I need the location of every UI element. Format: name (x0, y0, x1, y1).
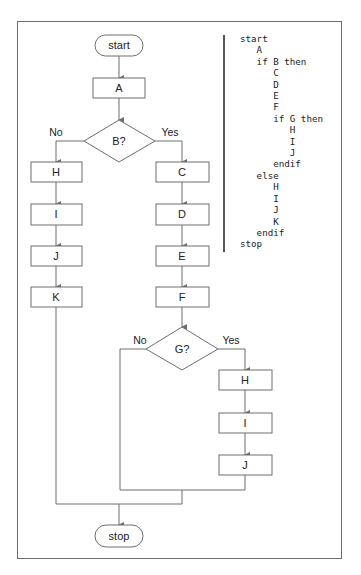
code-line: I (240, 193, 323, 204)
b-no-label: No (49, 126, 63, 138)
code-line: K (240, 216, 323, 227)
code-line: start (240, 33, 323, 44)
g-no-label: No (133, 334, 147, 346)
start-terminal: start (95, 35, 143, 56)
process-inner-h: H (219, 370, 272, 390)
code-line: endif (240, 158, 323, 169)
code-line: A (240, 44, 323, 55)
process-f: F (156, 287, 209, 307)
svg-text:start: start (108, 39, 129, 51)
svg-text:H: H (241, 374, 249, 386)
process-left-i: I (31, 204, 82, 225)
code-line: if B then (240, 56, 323, 67)
code-line: C (240, 67, 323, 78)
code-line: H (240, 181, 323, 192)
process-d: D (156, 204, 209, 225)
svg-text:F: F (179, 291, 186, 303)
svg-text:J: J (53, 250, 59, 262)
code-line: F (240, 101, 323, 112)
process-a: A (93, 78, 145, 98)
svg-text:E: E (178, 250, 185, 262)
process-left-k: K (31, 287, 82, 307)
svg-text:stop: stop (109, 530, 130, 542)
decision-g: G? (146, 327, 218, 370)
process-c: C (156, 162, 209, 182)
svg-text:J: J (242, 459, 248, 471)
svg-text:C: C (178, 166, 186, 178)
code-line: H (240, 124, 323, 135)
pseudocode-block: start A if B then C D E F if G then H I … (240, 33, 323, 250)
svg-text:G?: G? (175, 343, 190, 355)
g-yes-label: Yes (222, 334, 239, 346)
svg-text:D: D (178, 208, 186, 220)
decision-b: B? (84, 120, 155, 162)
stop-terminal: stop (95, 525, 143, 547)
svg-text:I: I (243, 417, 246, 429)
code-line: endif (240, 227, 323, 238)
process-left-h: H (31, 162, 82, 182)
code-line: E (240, 90, 323, 101)
svg-text:H: H (52, 166, 60, 178)
code-line: D (240, 79, 323, 90)
code-line: if G then (240, 113, 323, 124)
code-separator-line (223, 35, 225, 252)
svg-text:A: A (115, 82, 123, 94)
process-e: E (156, 246, 209, 266)
code-line: I (240, 136, 323, 147)
code-line: J (240, 147, 323, 158)
process-inner-i: I (219, 413, 272, 433)
code-line: J (240, 204, 323, 215)
code-line: else (240, 170, 323, 181)
process-left-j: J (31, 246, 82, 266)
svg-text:K: K (52, 291, 60, 303)
svg-text:I: I (54, 208, 57, 220)
process-inner-j: J (219, 455, 272, 475)
svg-text:B?: B? (112, 135, 125, 147)
code-line: stop (240, 238, 323, 249)
b-yes-label: Yes (161, 126, 178, 138)
